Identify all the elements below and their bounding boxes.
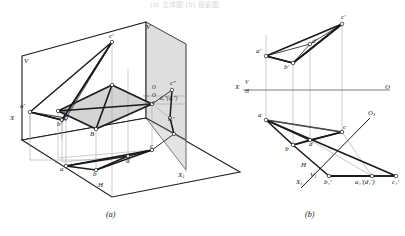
label-c1-prime-b: c₁': [392, 179, 399, 186]
label-a-prime-a: a': [20, 103, 25, 110]
label-b-top-a: b: [93, 171, 97, 178]
front-view-b: [266, 24, 342, 63]
label-a-prime-b: a': [256, 48, 261, 55]
label-c-prime-b: c': [341, 14, 346, 21]
label-axis-V-b: V: [245, 80, 248, 85]
geometry-figure: [0, 0, 405, 236]
label-c-prime-a: c': [109, 33, 114, 40]
label-axis-O-b: O: [385, 84, 390, 91]
label-X1-a: X1: [178, 172, 185, 180]
label-plane-V1: V: [146, 24, 150, 31]
front-view-b-thin: [266, 24, 342, 63]
label-d-prime-a: d': [62, 108, 67, 115]
label-c-space-a: c: [152, 99, 155, 106]
label-a-top-b: a: [258, 112, 262, 119]
label-O1-b: O1: [368, 110, 375, 118]
label-c-dprime-a: c": [170, 80, 176, 87]
label-axis-H-b: H: [245, 89, 249, 94]
label-X1-b: X1: [296, 179, 303, 187]
orthographic-diagram: [243, 22, 398, 188]
label-axis-X-b: X: [235, 84, 239, 91]
label-a1-d1-prime-b: a₁'(d₁'): [355, 179, 375, 186]
caption-a: (a): [106, 210, 115, 219]
label-d-prime-b: d': [312, 38, 317, 45]
label-axis-X-a: X: [10, 115, 14, 122]
label-plane-V: V: [24, 58, 28, 65]
label-c-top-b: c: [343, 124, 346, 131]
label-O1-a: O: [152, 93, 156, 98]
projector-lines: [266, 24, 342, 145]
label-a-top-a: a: [60, 166, 64, 173]
label-b-prime-b: b': [284, 64, 289, 71]
label-d-top-b: d: [309, 141, 313, 148]
label-H-b: H: [301, 162, 306, 169]
point-markers-ortho: [264, 22, 398, 178]
label-c-top-a: c: [150, 143, 153, 150]
label-O-a: O: [152, 85, 156, 90]
top-view-b: [266, 120, 342, 145]
label-V1-b: V1: [310, 172, 317, 180]
label-A-a: A: [62, 116, 66, 123]
label-a1-d1-dprime-a: a₁"(d₁"): [160, 96, 177, 101]
caption-b: (b): [305, 210, 314, 219]
label-plane-H-a: H: [98, 182, 103, 189]
pictorial-diagram: [22, 22, 240, 197]
label-b-top-b: b: [285, 146, 289, 153]
label-b1-prime-b: b₁': [324, 179, 331, 186]
label-d-top-a: d: [126, 158, 130, 165]
label-b1-dprime-a: b₁": [168, 117, 175, 122]
label-B-a: B: [90, 131, 94, 138]
